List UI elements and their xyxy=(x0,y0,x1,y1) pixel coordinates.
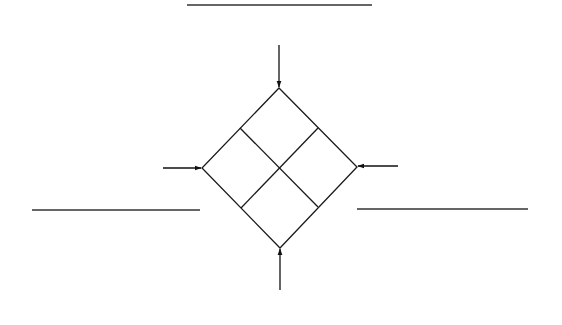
diagram-canvas xyxy=(0,0,562,325)
